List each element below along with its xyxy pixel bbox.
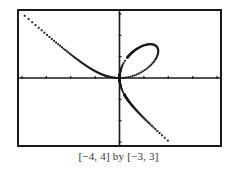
curve-left-branch [24, 15, 120, 79]
calculator-graph-screen [17, 9, 222, 147]
viewing-window-caption: [−4, 4] by [−3, 3] [0, 150, 237, 162]
curve-loop [119, 43, 160, 79]
curve-lower-branch [119, 79, 169, 142]
plot-area [19, 11, 220, 145]
